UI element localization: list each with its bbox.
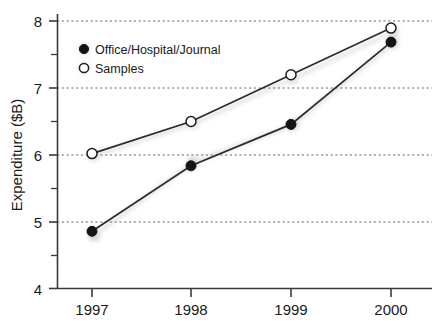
y-tick-label-5: 5 (34, 214, 42, 231)
data-point-office-1999 (286, 119, 296, 129)
y-tick-label-6: 6 (34, 147, 42, 164)
data-point-office-1997 (87, 226, 97, 236)
chart-legend: Office/Hospital/Journal Samples (79, 43, 221, 76)
data-point-samples-1998 (186, 117, 196, 127)
y-axis-ticks (49, 21, 57, 289)
y-tick-label-7: 7 (34, 80, 42, 97)
legend-marker-office-icon (79, 44, 88, 53)
y-tick-label-8: 8 (34, 13, 42, 30)
y-tick-label-4: 4 (34, 281, 42, 298)
data-point-samples-2000 (386, 23, 396, 33)
x-axis-ticks (92, 289, 391, 297)
chart-container: 8 7 6 5 4 1997 1998 1999 2000 Expenditur… (0, 0, 442, 327)
legend-label-samples: Samples (95, 62, 144, 76)
legend-label-office: Office/Hospital/Journal (95, 43, 221, 57)
legend-marker-samples-icon (79, 63, 88, 72)
x-tick-label-1999: 1999 (274, 301, 307, 318)
data-point-office-1998 (186, 161, 196, 171)
line-chart-svg: 8 7 6 5 4 1997 1998 1999 2000 Expenditur… (0, 0, 442, 327)
data-point-office-2000 (386, 37, 396, 47)
series-shadow (88, 26, 399, 242)
data-point-samples-1997 (87, 149, 97, 159)
x-tick-label-1997: 1997 (75, 301, 108, 318)
x-tick-label-1998: 1998 (174, 301, 207, 318)
data-point-samples-1999 (286, 70, 296, 80)
x-tick-label-2000: 2000 (374, 301, 407, 318)
y-axis-title: Expenditure ($B) (8, 99, 25, 212)
